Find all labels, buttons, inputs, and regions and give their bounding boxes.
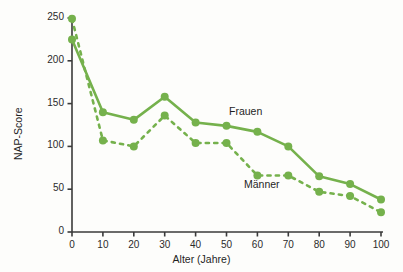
data-point-frauen-90: [346, 180, 354, 188]
y-tick-label-250: 250: [20, 11, 64, 22]
data-point-männer-30: [161, 112, 169, 120]
data-point-männer-90: [346, 192, 354, 200]
data-point-frauen-50: [223, 122, 231, 130]
data-point-frauen-60: [253, 128, 261, 136]
chart-container: 050100150200250 0102030405060708090100 N…: [0, 0, 403, 272]
x-axis-title: Alter (Jahre): [0, 253, 403, 265]
y-tick-label-50: 50: [20, 182, 64, 193]
data-point-frauen-40: [192, 118, 200, 126]
data-point-frauen-80: [315, 172, 323, 180]
series-label-maenner: Männer: [244, 178, 280, 190]
data-point-männer-80: [315, 188, 323, 196]
y-tick-label-100: 100: [20, 139, 64, 150]
data-point-männer-40: [192, 139, 200, 147]
data-point-frauen-100: [377, 195, 385, 203]
data-point-frauen-70: [284, 142, 292, 150]
data-point-frauen-0: [68, 35, 76, 43]
data-point-männer-20: [130, 142, 138, 150]
data-point-männer-50: [223, 139, 231, 147]
y-axis-title: NAP-Score: [12, 107, 24, 160]
series-label-frauen: Frauen: [229, 105, 262, 117]
data-point-männer-100: [377, 208, 385, 216]
y-tick-label-0: 0: [20, 225, 64, 236]
y-tick-label-200: 200: [20, 54, 64, 65]
series-line-frauen: [72, 39, 381, 199]
data-point-männer-10: [99, 136, 107, 144]
data-point-männer-0: [68, 15, 76, 23]
y-tick-label-150: 150: [20, 97, 64, 108]
data-point-männer-70: [284, 172, 292, 180]
data-point-frauen-10: [99, 108, 107, 116]
x-tick-label-100: 100: [361, 239, 401, 250]
data-point-frauen-30: [161, 93, 169, 101]
data-point-frauen-20: [130, 116, 138, 124]
